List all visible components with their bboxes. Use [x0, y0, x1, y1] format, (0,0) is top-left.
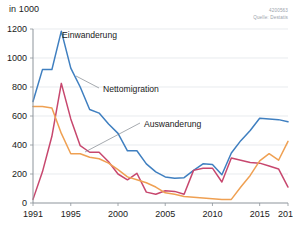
series-line-nettomigration — [33, 83, 288, 199]
plot-area: 020040060080010001200 199119952000200520… — [0, 0, 293, 225]
series-line-einwanderung — [33, 31, 288, 178]
y-tick-label: 0 — [22, 198, 27, 208]
annotation-label-auswanderung: Auswanderung — [144, 119, 202, 129]
gridlines-group — [30, 29, 288, 206]
annotation-auswanderung: Auswanderung — [85, 119, 202, 152]
x-tick-label: 2005 — [155, 209, 175, 219]
migration-line-chart: in 1000 4200563 Quelle: Destatis 0200400… — [0, 0, 293, 225]
annotation-einwanderung: Einwanderung — [62, 30, 117, 40]
x-tick-label: 2015 — [250, 209, 270, 219]
y-tick-label: 1200 — [7, 24, 27, 34]
annotation-label-einwanderung: Einwanderung — [62, 30, 117, 40]
y-tick-label: 200 — [12, 169, 27, 179]
x-tick-label: 2010 — [202, 209, 222, 219]
annotation-label-nettomigration: Nettomigration — [103, 84, 159, 94]
x-tick-label: 1991 — [23, 209, 43, 219]
x-tick-label: 1995 — [61, 209, 81, 219]
y-tick-label: 600 — [12, 111, 27, 121]
x-tick-label: 2000 — [108, 209, 128, 219]
y-tick-labels: 020040060080010001200 — [7, 24, 27, 208]
x-tick-labels: 1991199520002005201020152018 — [23, 209, 293, 219]
annotation-nettomigration: Nettomigration — [76, 76, 159, 94]
y-tick-label: 800 — [12, 82, 27, 92]
y-tick-label: 400 — [12, 140, 27, 150]
y-tick-label: 1000 — [7, 53, 27, 63]
x-tick-label: 2018 — [278, 209, 293, 219]
